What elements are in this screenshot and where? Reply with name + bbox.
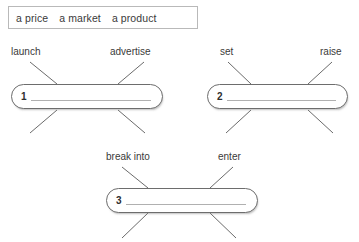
collocate-label-top-right: enter — [218, 152, 241, 162]
connector-bottom-right — [210, 213, 236, 238]
word-bank-item: a market — [59, 12, 101, 24]
answer-blank-3[interactable]: 3 — [106, 188, 258, 213]
word-bank: a price a market a product — [8, 6, 198, 29]
connector-bottom-right — [118, 110, 145, 133]
connector-top-right — [118, 62, 144, 84]
word-bank-item: a price — [16, 12, 48, 24]
answer-blank-2[interactable]: 2 — [207, 84, 348, 109]
connector-bottom-left — [122, 213, 148, 238]
item-number: 2 — [217, 92, 223, 102]
connector-top-left — [30, 62, 57, 84]
item-number: 1 — [21, 92, 27, 102]
word-bank-item: a product — [112, 12, 157, 24]
collocate-label-top-right: advertise — [110, 47, 151, 57]
answer-blank-1[interactable]: 1 — [11, 84, 163, 109]
collocate-label-top-left: break into — [106, 152, 150, 162]
connector-top-right — [308, 62, 332, 84]
connector-bottom-left — [30, 110, 57, 133]
write-line — [227, 100, 336, 101]
connector-bottom-right — [308, 110, 333, 133]
connector-top-left — [122, 167, 148, 188]
collocate-label-top-right: raise — [320, 47, 342, 57]
connector-top-left — [228, 62, 251, 84]
connector-top-right — [210, 167, 233, 188]
item-number: 3 — [116, 196, 122, 206]
worksheet-page: a price a market a product launch advert… — [0, 0, 359, 242]
write-line — [126, 204, 246, 205]
write-line — [31, 100, 151, 101]
collocate-label-top-left: launch — [11, 47, 40, 57]
collocate-label-top-left: set — [220, 47, 233, 57]
connector-bottom-left — [226, 110, 251, 133]
